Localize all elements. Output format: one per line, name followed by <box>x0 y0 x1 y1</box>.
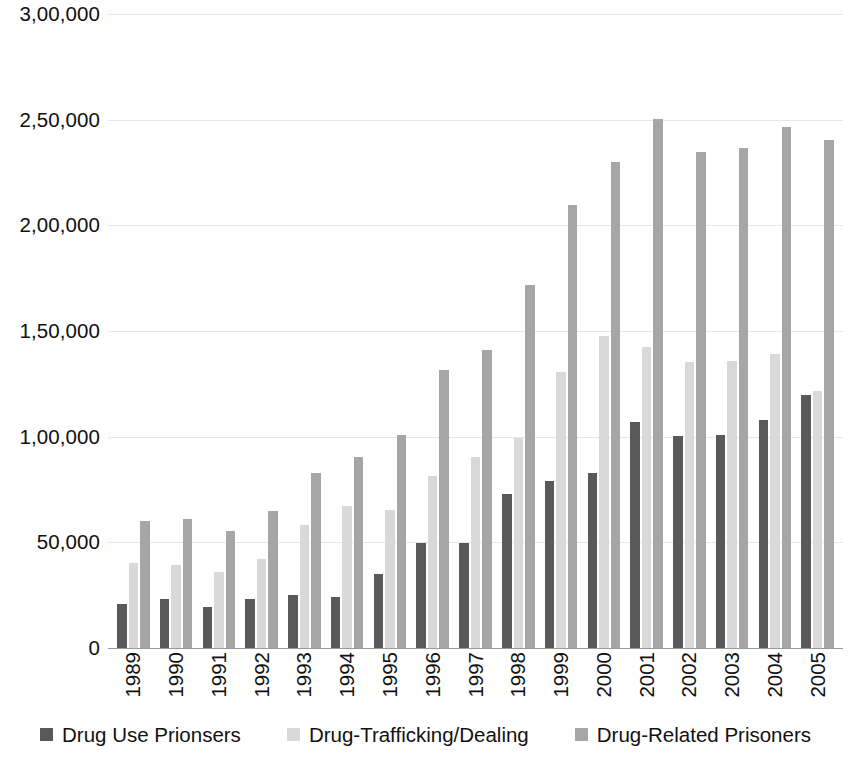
x-axis-tick-label: 1996 <box>422 652 443 698</box>
bar <box>599 336 609 648</box>
bar <box>630 422 640 648</box>
bar <box>739 148 749 648</box>
bar-chart: 3,00,0002,50,0002,00,0001,50,0001,00,000… <box>0 0 851 766</box>
bar <box>568 205 578 648</box>
bar-group <box>326 14 369 648</box>
x-axis-tick-label: 1995 <box>380 652 401 698</box>
bar <box>342 506 352 648</box>
legend-item[interactable]: Drug Use Prionsers <box>40 724 241 745</box>
x-axis-tick-label: 2002 <box>679 652 700 698</box>
bar <box>482 350 492 648</box>
bar-group <box>411 14 454 648</box>
x-axis-tick-label: 1998 <box>508 652 529 698</box>
bar-group <box>711 14 754 648</box>
x-axis-tick-label: 1991 <box>209 652 230 698</box>
bar-group <box>369 14 412 648</box>
chart-legend: Drug Use PrionsersDrug-Trafficking/Deali… <box>0 724 851 745</box>
x-axis-tick-label: 1994 <box>337 652 358 698</box>
bar <box>716 435 726 648</box>
bar <box>331 597 341 648</box>
bar <box>117 604 127 648</box>
bar <box>311 473 321 648</box>
bar <box>183 519 193 648</box>
bar-group <box>198 14 241 648</box>
bar-group <box>283 14 326 648</box>
bar <box>439 370 449 648</box>
bar <box>673 436 683 648</box>
bar <box>140 521 150 648</box>
y-axis-tick-label: 3,00,000 <box>0 4 100 25</box>
bar-group <box>668 14 711 648</box>
bar <box>759 420 769 648</box>
bar <box>653 119 663 648</box>
x-axis-tick-label: 2003 <box>722 652 743 698</box>
plot-area <box>108 14 843 648</box>
bar <box>257 559 267 648</box>
x-axis: 1989199019911992199319941995199619971998… <box>108 650 843 716</box>
x-axis-tick: 2002 <box>668 650 711 716</box>
x-axis-tick: 2001 <box>625 650 668 716</box>
x-axis-tick: 1990 <box>155 650 198 716</box>
bar <box>514 438 524 648</box>
bar <box>801 395 811 648</box>
bar-group <box>540 14 583 648</box>
legend-item[interactable]: Drug-Trafficking/Dealing <box>287 724 529 745</box>
x-axis-tick: 1992 <box>240 650 283 716</box>
x-axis-tick: 1997 <box>454 650 497 716</box>
y-axis-tick-label: 50,000 <box>0 532 100 553</box>
bar-group <box>454 14 497 648</box>
bar-group <box>497 14 540 648</box>
legend-label: Drug Use Prionsers <box>62 724 241 745</box>
bar <box>385 510 395 648</box>
bar <box>214 572 224 648</box>
bar <box>374 574 384 648</box>
x-axis-tick-label: 2005 <box>807 652 828 698</box>
bar <box>696 152 706 648</box>
x-axis-tick: 1993 <box>283 650 326 716</box>
bar-group <box>112 14 155 648</box>
bar <box>782 127 792 648</box>
x-axis-tick-label: 1999 <box>551 652 572 698</box>
bar <box>471 457 481 648</box>
x-axis-tick-label: 2001 <box>636 652 657 698</box>
bar <box>354 457 364 648</box>
bar-groups <box>108 14 843 648</box>
bar <box>824 140 834 648</box>
bar <box>459 543 469 648</box>
y-axis-tick-label: 0 <box>0 638 100 659</box>
bar <box>502 494 512 648</box>
bar <box>611 162 621 648</box>
bar <box>268 511 278 648</box>
bar <box>203 607 213 648</box>
x-axis-tick-label: 1993 <box>294 652 315 698</box>
x-axis-tick: 1995 <box>369 650 412 716</box>
x-axis-tick-label: 1990 <box>166 652 187 698</box>
bar-group <box>240 14 283 648</box>
bar <box>813 391 823 648</box>
bar <box>428 476 438 648</box>
x-axis-tick: 1999 <box>540 650 583 716</box>
x-axis-tick: 1989 <box>112 650 155 716</box>
legend-swatch-icon <box>287 728 300 741</box>
x-axis-tick: 1996 <box>411 650 454 716</box>
legend-item[interactable]: Drug-Related Prisoners <box>575 724 811 745</box>
bar <box>171 565 181 648</box>
legend-label: Drug-Related Prisoners <box>597 724 811 745</box>
x-axis-tick: 2003 <box>711 650 754 716</box>
bar <box>545 481 555 648</box>
x-axis-tick: 2000 <box>582 650 625 716</box>
bar <box>416 543 426 648</box>
bar <box>129 563 139 648</box>
bar-group <box>796 14 839 648</box>
x-axis-tick-label: 1992 <box>251 652 272 698</box>
x-axis-tick-label: 2000 <box>594 652 615 698</box>
bar-group <box>155 14 198 648</box>
x-axis-tick: 2004 <box>753 650 796 716</box>
y-axis-tick-label: 1,50,000 <box>0 321 100 342</box>
x-axis-tick-label: 1997 <box>465 652 486 698</box>
bar <box>288 595 298 648</box>
x-axis-tick: 1991 <box>198 650 241 716</box>
gridline <box>108 648 843 649</box>
y-axis-tick-label: 2,50,000 <box>0 109 100 130</box>
bar-group <box>625 14 668 648</box>
